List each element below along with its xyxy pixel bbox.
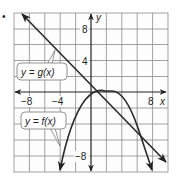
x-axis-label: x — [159, 96, 166, 107]
f-label: y = f(x) — [24, 116, 56, 127]
y-tick-8: 8 — [82, 24, 88, 35]
x-tick-neg8: −8 — [21, 96, 33, 107]
x-tick-neg4: −4 — [52, 96, 64, 107]
g-label: y = g(x) — [20, 67, 55, 78]
y-axis-label: y — [95, 12, 102, 23]
bullet: • — [2, 11, 6, 22]
y-tick-neg8: −8 — [75, 151, 87, 162]
graph: • y x −8 −4 8 8 4 −8 y = g(x) y = f(x — [0, 0, 176, 183]
y-tick-4: 4 — [82, 56, 88, 67]
x-tick-8: 8 — [148, 96, 154, 107]
